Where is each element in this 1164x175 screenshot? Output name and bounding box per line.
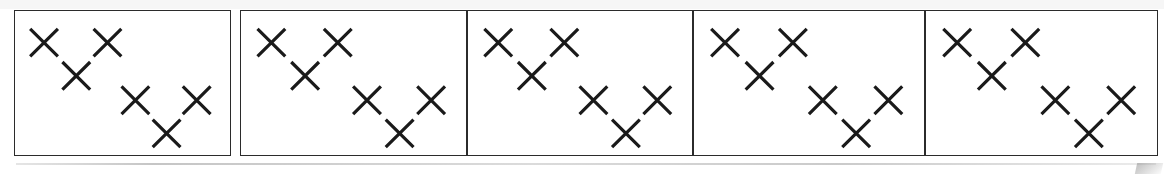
x-mark bbox=[353, 86, 381, 114]
x-mark bbox=[324, 29, 352, 57]
x-mark bbox=[386, 120, 414, 148]
x-mark bbox=[1041, 86, 1069, 114]
x-mark bbox=[874, 86, 902, 114]
x-mark bbox=[842, 120, 870, 148]
x-mark bbox=[643, 86, 671, 114]
panel-5 bbox=[925, 10, 1158, 156]
x-mark bbox=[153, 120, 181, 148]
x-mark bbox=[943, 29, 971, 57]
x-mark bbox=[809, 86, 837, 114]
x-mark bbox=[183, 86, 211, 114]
x-mark bbox=[257, 29, 285, 57]
scan-artifact-baseline bbox=[16, 163, 1156, 165]
x-mark bbox=[580, 86, 608, 114]
x-mark bbox=[30, 29, 58, 57]
x-mark bbox=[746, 62, 774, 90]
x-mark bbox=[62, 62, 90, 90]
x-mark bbox=[1075, 120, 1103, 148]
panel-4-markers bbox=[694, 11, 924, 155]
panel-2 bbox=[240, 10, 467, 156]
x-mark bbox=[518, 62, 546, 90]
panel-1 bbox=[14, 10, 231, 156]
x-mark bbox=[291, 62, 319, 90]
x-mark bbox=[550, 29, 578, 57]
panel-3-markers bbox=[468, 11, 692, 155]
figure-root bbox=[0, 0, 1164, 175]
panel-2-markers bbox=[241, 11, 466, 155]
x-mark bbox=[122, 86, 150, 114]
x-mark bbox=[1011, 29, 1039, 57]
panel-5-markers bbox=[926, 11, 1157, 155]
scan-artifact-smudge bbox=[1135, 163, 1163, 174]
x-mark bbox=[417, 86, 445, 114]
x-mark bbox=[1107, 86, 1135, 114]
panel-4 bbox=[693, 10, 925, 156]
x-mark bbox=[484, 29, 512, 57]
x-mark bbox=[779, 29, 807, 57]
x-mark bbox=[612, 120, 640, 148]
x-mark bbox=[711, 29, 739, 57]
panel-1-markers bbox=[15, 11, 230, 155]
x-mark bbox=[978, 62, 1006, 90]
x-mark bbox=[94, 29, 122, 57]
panel-3 bbox=[467, 10, 693, 156]
scan-haze-top bbox=[0, 0, 1164, 9]
